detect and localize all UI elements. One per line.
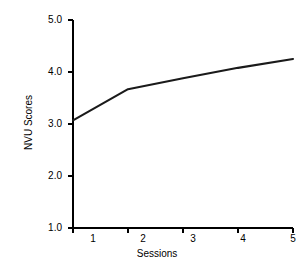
y-tick-label-4: 4.0 xyxy=(32,67,62,77)
data-series-line xyxy=(73,59,293,120)
x-tick-label-1: 1 xyxy=(83,234,103,244)
x-tick-label-5: 5 xyxy=(283,234,303,244)
x-axis-title: Sessions xyxy=(137,249,178,259)
x-tick-label-2: 2 xyxy=(133,234,153,244)
y-tick-label-1: 1.0 xyxy=(32,223,62,233)
y-tick-label-5: 5.0 xyxy=(32,15,62,25)
x-tick-label-4: 4 xyxy=(233,234,253,244)
y-axis-title: NVU Scores xyxy=(24,95,34,150)
x-axis-ticks xyxy=(73,228,293,233)
line-chart: 5.0 4.0 3.0 2.0 1.0 1 2 3 4 5 NVU Scores… xyxy=(0,0,305,263)
x-tick-label-3: 3 xyxy=(183,234,203,244)
y-axis-ticks xyxy=(68,20,73,228)
y-tick-label-2: 2.0 xyxy=(32,171,62,181)
y-tick-label-3: 3.0 xyxy=(32,119,62,129)
